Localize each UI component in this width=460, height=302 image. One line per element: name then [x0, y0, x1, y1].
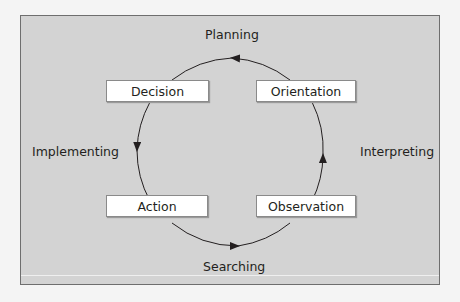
- label-interpreting: Interpreting: [360, 144, 434, 159]
- label-implementing: Implementing: [32, 144, 119, 159]
- node-orientation: Orientation: [256, 80, 356, 102]
- label-planning: Planning: [205, 27, 259, 42]
- label-searching: Searching: [203, 259, 265, 274]
- arc-searching: [172, 223, 238, 246]
- arc-planning: [232, 58, 290, 80]
- node-observation: Observation: [256, 195, 356, 217]
- node-action: Action: [106, 195, 208, 217]
- arc-implementing: [137, 102, 150, 150]
- node-decision: Decision: [106, 80, 209, 102]
